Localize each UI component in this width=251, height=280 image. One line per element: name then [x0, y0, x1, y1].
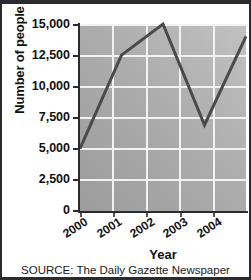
y-axis-tick [73, 179, 78, 181]
x-axis-title: Year [80, 247, 246, 262]
y-axis-tick-label: 10,000 [10, 79, 70, 93]
x-axis-tick-label: 2000 [60, 215, 90, 241]
y-axis-line [78, 23, 80, 213]
y-axis-tick [73, 24, 78, 26]
plot-area [80, 24, 246, 211]
y-axis-tick [73, 55, 78, 57]
x-axis-tick-label: 2003 [160, 215, 190, 241]
y-axis-tick-label: 0 [10, 203, 70, 217]
data-line-series [80, 24, 246, 211]
x-axis-tick-label: 2002 [127, 215, 157, 241]
y-axis-tick [73, 117, 78, 119]
y-axis-tick-label: 7,500 [10, 110, 70, 124]
x-axis-tick-label: 2004 [194, 215, 224, 241]
x-axis-tick-label: 2001 [94, 215, 124, 241]
y-axis-tick-label: 2,500 [10, 172, 70, 186]
x-axis-line [78, 211, 248, 213]
y-axis-tick [73, 86, 78, 88]
y-axis-tick-label: 5,000 [10, 141, 70, 155]
y-axis-tick [73, 148, 78, 150]
source-caption: SOURCE: The Daily Gazette Newspaper [2, 264, 249, 276]
y-axis-tick-label: 15,000 [10, 17, 70, 31]
y-axis-tick-label: 12,500 [10, 48, 70, 62]
y-axis-tick [73, 210, 78, 212]
line-chart-figure: Number of people 15,000 12,500 10,000 7,… [0, 0, 251, 280]
